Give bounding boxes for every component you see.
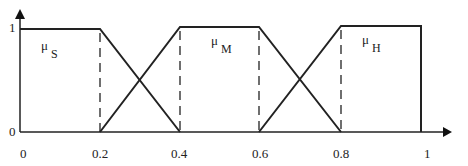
y-tick-1: 1 (9, 20, 16, 36)
y-tick-0: 0 (9, 124, 16, 140)
series-mu-h (259, 26, 421, 132)
x-tick-1: 1 (424, 146, 431, 162)
label-mu-s: μS (41, 38, 58, 58)
x-axis-arrow-icon (443, 127, 452, 137)
x-tick-0.8: 0.8 (333, 146, 349, 162)
x-tick-0.6: 0.6 (252, 146, 268, 162)
label-mu-m: μM (211, 33, 232, 53)
y-axis-arrow-icon (15, 9, 25, 19)
x-tick-0.4: 0.4 (171, 146, 187, 162)
x-tick-0: 0 (20, 146, 27, 162)
x-tick-0.2: 0.2 (92, 146, 108, 162)
membership-function-chart (0, 0, 468, 166)
label-mu-h: μH (362, 32, 381, 52)
